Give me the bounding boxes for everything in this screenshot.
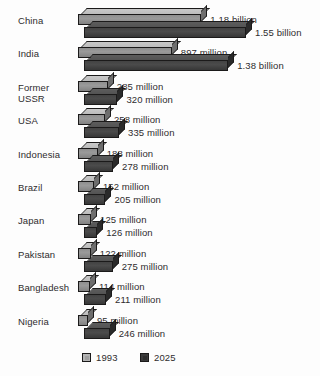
value-label-2025: 335 million <box>128 128 175 138</box>
legend-item-1993: 1993 <box>82 352 118 363</box>
bar-2025 <box>84 161 113 172</box>
bar-1993 <box>78 281 90 292</box>
bar-front-face <box>84 194 105 205</box>
bar-2025 <box>84 294 106 305</box>
category-label: China <box>18 15 43 27</box>
value-label-2025: 278 million <box>122 162 169 172</box>
legend-label-1993: 1993 <box>96 352 118 363</box>
category-label: Former USSR <box>18 82 49 105</box>
category-label: Brazil <box>18 182 42 194</box>
bar-front-face <box>78 248 91 259</box>
bar-1993 <box>78 315 88 326</box>
chart-legend: 1993 2025 <box>0 349 320 369</box>
bar-2025 <box>84 127 119 138</box>
category-label: USA <box>18 115 38 127</box>
category-label: Pakistan <box>18 249 55 261</box>
bar-2025 <box>84 94 117 105</box>
bar-front-face <box>84 227 97 238</box>
bar-front-face <box>84 127 119 138</box>
value-label-2025: 126 million <box>106 228 153 238</box>
category-label: Bangladesh <box>18 282 69 294</box>
legend-swatch-2025-icon <box>140 353 149 362</box>
value-label-2025: 1.55 billion <box>255 28 302 38</box>
value-label-2025: 320 million <box>126 95 173 105</box>
bar-2025 <box>84 27 246 38</box>
bar-front-face <box>84 27 246 38</box>
category-label: Japan <box>18 215 44 227</box>
bar-front-face <box>84 328 110 339</box>
bar-2025 <box>84 227 97 238</box>
bar-side-face <box>228 51 234 68</box>
bar-2025 <box>84 194 105 205</box>
bar-front-face <box>84 261 113 272</box>
legend-item-2025: 2025 <box>140 352 176 363</box>
value-label-2025: 211 million <box>115 295 161 305</box>
category-label: Nigeria <box>18 316 49 328</box>
value-label-2025: 275 million <box>122 262 169 272</box>
category-label: India <box>18 48 39 60</box>
category-label: Indonesia <box>18 149 60 161</box>
bar-front-face <box>84 161 113 172</box>
value-label-2025: 246 million <box>119 329 166 339</box>
bar-front-face <box>78 281 90 292</box>
value-label-1993: 125 million <box>100 215 147 225</box>
bar-front-face <box>84 94 117 105</box>
population-bar-chart: China1.18 billion1.55 billionIndia897 mi… <box>0 0 320 376</box>
bar-2025 <box>84 60 228 71</box>
value-label-2025: 205 million <box>114 195 161 205</box>
bar-1993 <box>78 248 91 259</box>
bar-2025 <box>84 261 113 272</box>
bar-front-face <box>78 315 88 326</box>
bar-front-face <box>84 60 228 71</box>
bar-2025 <box>84 328 110 339</box>
legend-swatch-1993-icon <box>82 353 91 362</box>
value-label-2025: 1.38 billion <box>237 61 284 71</box>
bar-front-face <box>84 294 106 305</box>
legend-label-2025: 2025 <box>154 352 176 363</box>
